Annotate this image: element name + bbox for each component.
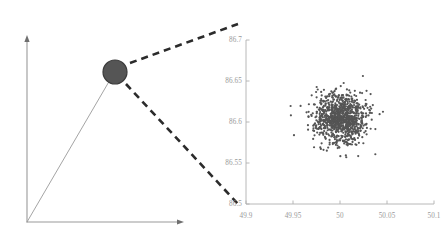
scatter-point [314, 103, 316, 105]
scatter-point [312, 129, 314, 131]
scatter-point-cloud [290, 75, 385, 158]
scatter-point [349, 107, 351, 109]
scatter-point [334, 102, 336, 104]
scatter-point [324, 120, 326, 122]
scatter-point [343, 142, 345, 144]
scatter-plot-panel: 86.786.6586.686.5586.5 49.949.955050.055… [0, 0, 448, 249]
scatter-point [344, 135, 346, 137]
scatter-point [356, 120, 358, 122]
scatter-point [315, 115, 317, 117]
scatter-point [360, 125, 362, 127]
scatter-point [351, 133, 353, 135]
scatter-point [349, 91, 351, 93]
scatter-point [366, 127, 368, 129]
scatter-point [334, 114, 336, 116]
scatter-point [325, 109, 327, 111]
scatter-point [316, 106, 318, 108]
x-tick-label: 50 [336, 212, 343, 220]
scatter-point [363, 108, 365, 110]
scatter-point [331, 119, 333, 121]
scatter-point [326, 100, 328, 102]
scatter-point [338, 102, 340, 104]
scatter-point [328, 104, 330, 106]
scatter-point [313, 146, 315, 148]
scatter-point [356, 99, 358, 101]
scatter-point [316, 131, 318, 133]
scatter-point [346, 88, 348, 90]
y-tick-label: 86.55 [214, 159, 242, 167]
scatter-point [352, 122, 354, 124]
scatter-point [336, 123, 338, 125]
scatter-point [360, 120, 362, 122]
scatter-point [320, 125, 322, 127]
scatter-point [345, 154, 347, 156]
scatter-point [354, 115, 356, 117]
scatter-point [361, 112, 363, 114]
scatter-point [348, 89, 350, 91]
scatter-point [323, 112, 325, 114]
scatter-x-tick-marks [246, 201, 434, 205]
scatter-point [367, 114, 369, 116]
scatter-point [345, 105, 347, 107]
scatter-point [328, 95, 330, 97]
scatter-point [357, 123, 359, 125]
scatter-point [326, 150, 328, 152]
scatter-point [335, 131, 337, 133]
scatter-point [332, 104, 334, 106]
scatter-point [347, 143, 349, 145]
scatter-point [360, 129, 362, 131]
scatter-point [324, 100, 326, 102]
scatter-point [315, 91, 317, 93]
scatter-point [321, 94, 323, 96]
scatter-point [324, 116, 326, 118]
scatter-point [333, 136, 335, 138]
scatter-point [353, 138, 355, 140]
scatter-point [347, 118, 349, 120]
scatter-point [322, 116, 324, 118]
scatter-point [365, 112, 367, 114]
scatter-point [323, 89, 325, 91]
scatter-point [336, 104, 338, 106]
y-tick-label: 86.65 [214, 77, 242, 85]
scatter-point [344, 102, 346, 104]
scatter-point [321, 142, 323, 144]
scatter-point [371, 119, 373, 121]
scatter-point [349, 110, 351, 112]
scatter-point [353, 102, 355, 104]
scatter-point [337, 95, 339, 97]
scatter-point [365, 124, 367, 126]
scatter-point [333, 134, 335, 136]
scatter-point [290, 114, 292, 116]
scatter-point [347, 102, 349, 104]
scatter-point [382, 111, 384, 113]
scatter-point [363, 124, 365, 126]
scatter-point [340, 97, 342, 99]
scatter-point [357, 117, 359, 119]
scatter-point [337, 147, 339, 149]
scatter-point [358, 142, 360, 144]
scatter-point [329, 141, 331, 143]
scatter-point [342, 135, 344, 137]
scatter-point [351, 99, 353, 101]
scatter-point [321, 100, 323, 102]
scatter-point [321, 109, 323, 111]
scatter-point [319, 102, 321, 104]
scatter-point [374, 128, 376, 130]
scatter-point [368, 109, 370, 111]
scatter-y-tick-marks [246, 40, 250, 204]
scatter-point [347, 123, 349, 125]
scatter-point [322, 107, 324, 109]
scatter-point [324, 125, 326, 127]
scatter-point [345, 132, 347, 134]
scatter-point [334, 110, 336, 112]
scatter-point [330, 128, 332, 130]
scatter-point [324, 126, 326, 128]
scatter-point [357, 155, 359, 157]
scatter-point [330, 101, 332, 103]
scatter-point [307, 129, 309, 131]
scatter-point [358, 132, 360, 134]
x-tick-label: 49.9 [240, 212, 253, 220]
scatter-point [341, 121, 343, 123]
scatter-point [336, 134, 338, 136]
scatter-point [355, 144, 357, 146]
